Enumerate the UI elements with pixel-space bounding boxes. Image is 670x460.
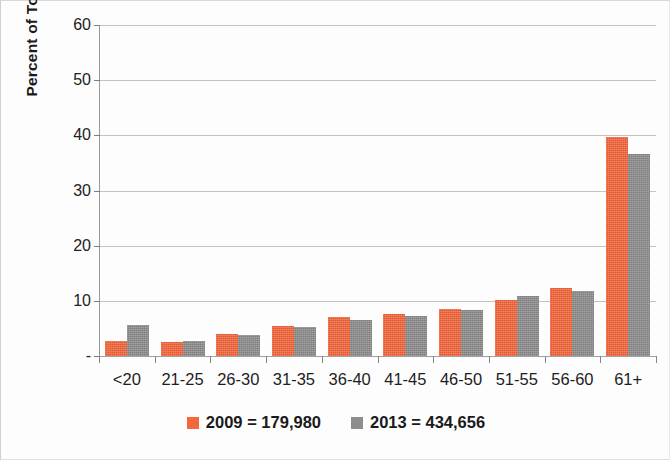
- y-tick-label-60: 60: [47, 17, 91, 33]
- bar-group: [550, 25, 594, 356]
- bar: [216, 334, 238, 356]
- legend-entry[interactable]: 2013 = 434,656: [351, 413, 485, 432]
- x-tick-label: 31-35: [266, 367, 322, 391]
- bar: [495, 300, 517, 356]
- x-tick-label: <20: [99, 367, 155, 391]
- x-tick-mark: [489, 356, 490, 363]
- y-tick-mark-0: [94, 356, 100, 357]
- y-tick-mark-40: [94, 135, 100, 136]
- x-tick-label: 51-55: [489, 367, 545, 391]
- bar: [628, 154, 650, 356]
- bar: [272, 326, 294, 356]
- bar: [517, 296, 539, 356]
- x-tick-mark: [656, 356, 657, 363]
- chart-legend: 2009 = 179,9802013 = 434,656: [1, 413, 670, 432]
- bar-chart: Percent of Total -102030405060 <2021-252…: [0, 0, 670, 460]
- bar: [383, 314, 405, 356]
- x-tick-label: 41-45: [378, 367, 434, 391]
- legend-swatch-icon: [351, 417, 363, 429]
- y-tick-label-20: 20: [47, 238, 91, 254]
- x-tick-mark: [322, 356, 323, 363]
- bar: [105, 341, 127, 356]
- legend-entry[interactable]: 2009 = 179,980: [187, 413, 321, 432]
- bar-group: [105, 25, 149, 356]
- y-tick-mark-10: [94, 301, 100, 302]
- x-tick-mark: [155, 356, 156, 363]
- y-tick-label-30: 30: [47, 183, 91, 199]
- x-tick-mark: [210, 356, 211, 363]
- bar: [183, 341, 205, 356]
- x-tick-mark: [99, 356, 100, 363]
- legend-swatch-icon: [187, 417, 199, 429]
- x-tick-mark: [600, 356, 601, 363]
- bar-group: [606, 25, 650, 356]
- bar: [328, 317, 350, 356]
- y-tick-mark-30: [94, 191, 100, 192]
- bar: [439, 309, 461, 356]
- x-tick-mark: [378, 356, 379, 363]
- y-axis-tick-labels: -102030405060: [29, 1, 91, 460]
- x-axis-tick-labels: <2021-2526-3031-3536-4041-4546-5051-5556…: [99, 367, 656, 395]
- y-tick-mark-50: [94, 80, 100, 81]
- bar-group: [272, 25, 316, 356]
- x-tick-mark: [433, 356, 434, 363]
- bar-group: [216, 25, 260, 356]
- x-tick-mark: [266, 356, 267, 363]
- y-tick-label-10: 10: [47, 293, 91, 309]
- bar: [161, 342, 183, 356]
- x-tick-label: 21-25: [155, 367, 211, 391]
- bar: [405, 316, 427, 356]
- legend-label: 2013 = 434,656: [370, 413, 485, 432]
- bar-group: [495, 25, 539, 356]
- y-tick-mark-60: [94, 25, 100, 26]
- bar-group: [383, 25, 427, 356]
- bar: [461, 310, 483, 356]
- bar: [350, 320, 372, 356]
- bar: [572, 291, 594, 356]
- bar: [238, 335, 260, 356]
- y-tick-mark-20: [94, 246, 100, 247]
- x-tick-label: 56-60: [545, 367, 601, 391]
- bar-group: [328, 25, 372, 356]
- y-tick-label-50: 50: [47, 72, 91, 88]
- y-tick-label-40: 40: [47, 127, 91, 143]
- bar-group: [161, 25, 205, 356]
- x-tick-label: 26-30: [210, 367, 266, 391]
- bar: [550, 288, 572, 356]
- x-tick-label: 46-50: [433, 367, 489, 391]
- x-tick-label: 36-40: [322, 367, 378, 391]
- plot-area: [99, 25, 656, 356]
- bar: [127, 325, 149, 356]
- x-tick-mark: [545, 356, 546, 363]
- legend-label: 2009 = 179,980: [206, 413, 321, 432]
- x-tick-label: 61+: [600, 367, 656, 391]
- bar: [606, 137, 628, 356]
- bar-group: [439, 25, 483, 356]
- y-tick-label-0: -: [47, 348, 91, 364]
- bar: [294, 327, 316, 356]
